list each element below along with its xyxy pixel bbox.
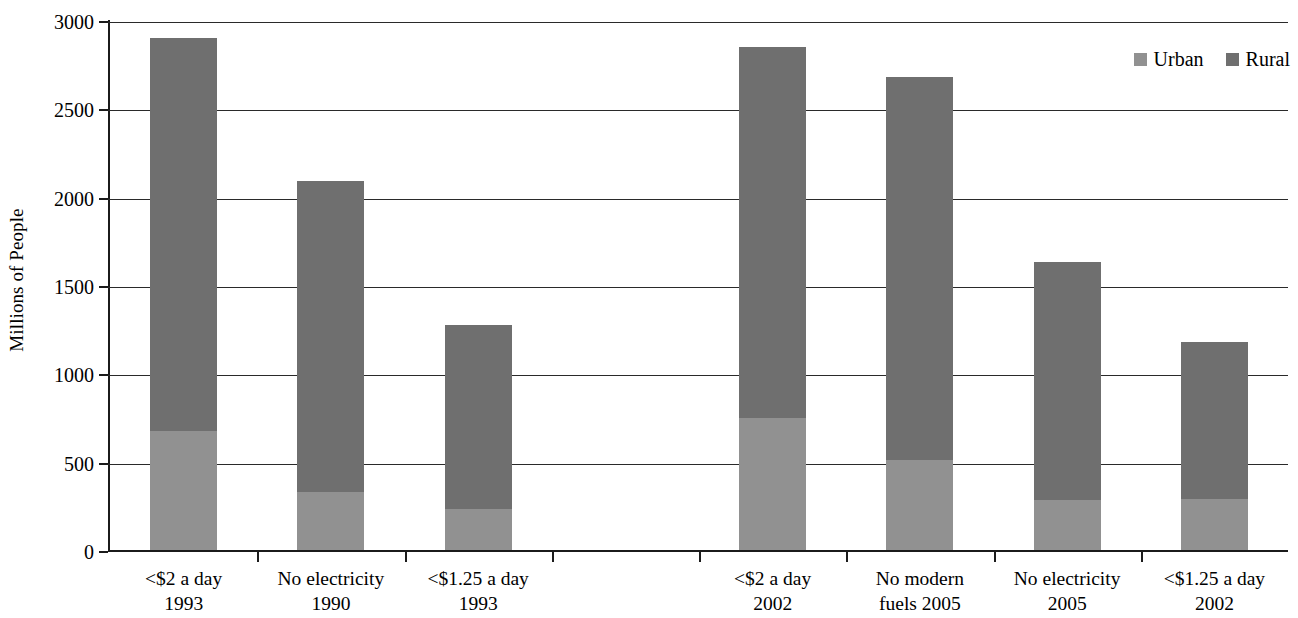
y-axis-tick	[99, 198, 108, 200]
x-axis-tick	[699, 552, 701, 562]
bar-segment-rural[interactable]	[886, 77, 953, 460]
x-axis-label: No electricity2005	[994, 566, 1141, 616]
x-axis-tick	[994, 552, 996, 562]
x-axis-label: No electricity1990	[257, 566, 404, 616]
bar-stack[interactable]	[1181, 342, 1248, 550]
x-axis-line	[108, 550, 1288, 552]
bar-segment-urban[interactable]	[886, 460, 953, 550]
y-axis-tick	[99, 551, 108, 553]
x-axis-label-line1: No electricity	[278, 568, 385, 589]
bar-segment-urban[interactable]	[1181, 499, 1248, 550]
x-axis-label: <$1.25 a day1993	[405, 566, 552, 616]
bar-segment-rural[interactable]	[150, 38, 217, 431]
x-axis-label: <$2 a day2002	[699, 566, 846, 616]
x-axis-label-line2: 2002	[1141, 591, 1288, 616]
y-axis-tick	[99, 374, 108, 376]
y-axis-tick	[99, 21, 108, 23]
bar-stack[interactable]	[886, 77, 953, 550]
legend-label: Rural	[1246, 48, 1290, 71]
x-axis-tick	[1141, 552, 1143, 562]
x-axis-tick	[846, 552, 848, 562]
bar-segment-rural[interactable]	[1034, 262, 1101, 500]
bar-segment-rural[interactable]	[739, 47, 806, 418]
bar-segment-urban[interactable]	[297, 492, 364, 550]
bar-stack[interactable]	[739, 47, 806, 551]
x-axis-tick	[257, 552, 259, 562]
x-axis-label-line1: <$1.25 a day	[1164, 568, 1265, 589]
x-axis-label-line2: 1993	[405, 591, 552, 616]
y-axis-tick-label: 2500	[54, 99, 94, 122]
bar-segment-rural[interactable]	[1181, 342, 1248, 499]
bar-segment-urban[interactable]	[150, 431, 217, 550]
legend-swatch-icon	[1226, 53, 1239, 66]
y-axis-tick	[99, 286, 108, 288]
y-axis-tick	[99, 109, 108, 111]
bar-stack[interactable]	[297, 181, 364, 550]
legend-entry-urban[interactable]: Urban	[1134, 48, 1204, 71]
y-axis-tick-label: 1000	[54, 364, 94, 387]
x-axis-label-line2: 1990	[257, 591, 404, 616]
bar-segment-urban[interactable]	[739, 418, 806, 551]
x-axis-label-line2: 2005	[994, 591, 1141, 616]
x-axis-label: No modernfuels 2005	[846, 566, 993, 616]
bar-stack[interactable]	[150, 38, 217, 550]
x-axis-label-line1: <$2 a day	[734, 568, 811, 589]
x-axis-label-line1: <$2 a day	[145, 568, 222, 589]
x-axis-label-line2: 2002	[699, 591, 846, 616]
legend-label: Urban	[1154, 48, 1204, 71]
x-axis-label-line1: No electricity	[1014, 568, 1121, 589]
x-axis-tick	[552, 552, 554, 562]
y-axis-tick-label: 1500	[54, 276, 94, 299]
bar-stack[interactable]	[1034, 262, 1101, 550]
y-axis-tick	[99, 463, 108, 465]
bar-segment-rural[interactable]	[445, 325, 512, 510]
y-axis-title: Millions of People	[4, 0, 30, 560]
x-axis-tick	[405, 552, 407, 562]
x-axis-label-line2: fuels 2005	[846, 591, 993, 616]
bar-stack[interactable]	[445, 325, 512, 550]
x-axis-label: <$1.25 a day2002	[1141, 566, 1288, 616]
bar-segment-urban[interactable]	[445, 509, 512, 550]
plot-area: 050010001500200025003000	[108, 20, 1288, 552]
x-axis-label: <$2 a day1993	[110, 566, 257, 616]
x-axis-label-line1: <$1.25 a day	[427, 568, 528, 589]
legend-swatch-icon	[1134, 53, 1147, 66]
legend: UrbanRural	[1134, 48, 1290, 71]
stacked-bar-chart: Millions of People 050010001500200025003…	[0, 0, 1298, 618]
x-axis-label-line1: No modern	[876, 568, 964, 589]
bar-segment-rural[interactable]	[297, 181, 364, 492]
bar-segment-urban[interactable]	[1034, 500, 1101, 550]
y-axis-tick-label: 500	[64, 452, 94, 475]
legend-entry-rural[interactable]: Rural	[1226, 48, 1290, 71]
x-axis-labels: <$2 a day1993No electricity1990<$1.25 a …	[108, 566, 1288, 618]
y-axis-tick-label: 0	[84, 541, 94, 564]
y-axis-tick-label: 3000	[54, 11, 94, 34]
x-axis-label-line2: 1993	[110, 591, 257, 616]
bars-layer	[110, 20, 1288, 550]
y-axis-tick-label: 2000	[54, 187, 94, 210]
